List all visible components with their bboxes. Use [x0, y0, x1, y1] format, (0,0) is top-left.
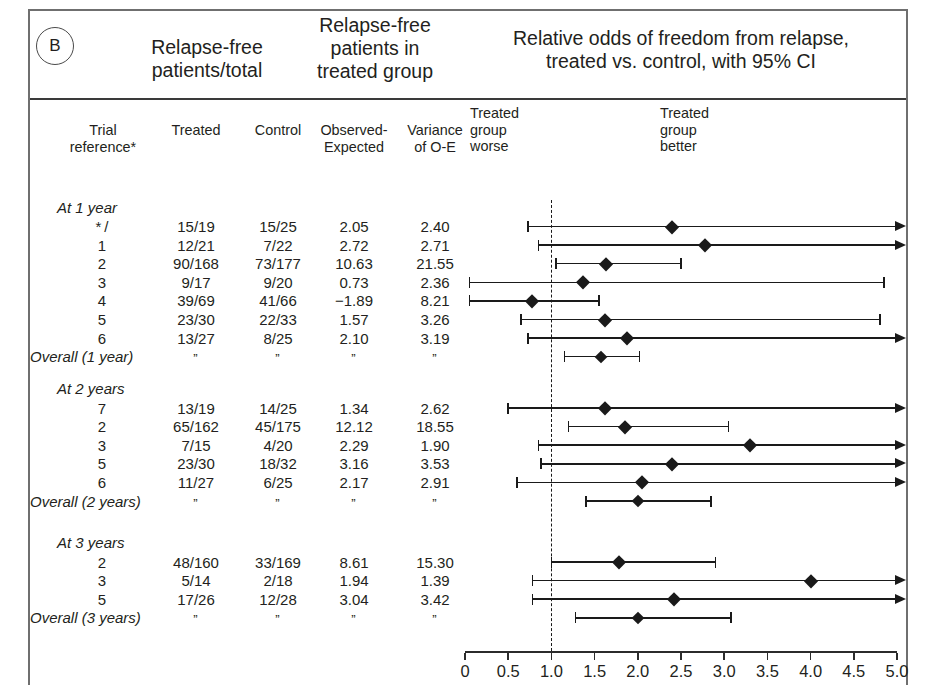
- panel-letter-text: B: [49, 36, 60, 56]
- row-g1-r5-point-estimate: [526, 294, 539, 307]
- x-axis-label-2.0: 2.0: [626, 662, 649, 681]
- panel-letter-badge: B: [36, 27, 74, 65]
- row-treated: 48/160: [173, 555, 219, 570]
- x-axis-tick-0: [464, 653, 466, 660]
- x-axis-tick-4.5: [853, 653, 855, 660]
- group-label-2: At 2 years: [57, 381, 125, 396]
- row-g1-r3-ci-cap-left: [555, 258, 557, 269]
- row-g2-r1-ci-cap-left: [507, 403, 509, 414]
- header-relapse-free-treated-group: Relapse-free patients in treated group: [296, 14, 454, 83]
- row-g2-r4-ci-line: [541, 463, 897, 465]
- row-g3-r1-ci-cap-right: [715, 557, 717, 568]
- row-observed-expected: 2.05: [339, 219, 368, 234]
- overall-label-2: Overall (2 years): [30, 494, 141, 509]
- row-control: 9/20: [263, 275, 292, 290]
- row-g1-r7-ci-cap-left: [527, 333, 529, 344]
- overall-g3-point-estimate: [631, 611, 644, 624]
- overall-ditto-4: ”: [432, 351, 437, 366]
- row-control: 41/66: [259, 293, 297, 308]
- row-treated: 12/21: [177, 238, 215, 253]
- overall-g3-ci-line: [576, 617, 732, 619]
- row-g2-r5-ci-arrow-right: [895, 477, 906, 487]
- x-axis-label-3.0: 3.0: [713, 662, 736, 681]
- row-g3-r3-ci-line: [532, 598, 897, 600]
- row-control: 45/175: [255, 419, 301, 434]
- x-axis-label-3.5: 3.5: [756, 662, 779, 681]
- row-g2-r2-ci-cap-right: [728, 421, 730, 432]
- row-observed-expected: 1.34: [339, 401, 368, 416]
- row-observed-expected: 1.57: [339, 312, 368, 327]
- overall-g1-point-estimate: [594, 350, 607, 363]
- x-axis-label-0: 0: [460, 662, 469, 681]
- row-control: 14/25: [259, 401, 297, 416]
- row-control: 12/28: [259, 592, 297, 607]
- row-trial-reference: 7: [98, 401, 106, 416]
- row-observed-expected: 2.17: [339, 475, 368, 490]
- row-control: 8/25: [263, 331, 292, 346]
- row-control: 7/22: [263, 238, 292, 253]
- x-axis-tick-5.0: [896, 653, 898, 660]
- overall-ditto-1: ”: [193, 612, 198, 627]
- overall-ditto-3: ”: [351, 612, 356, 627]
- x-axis-label-1.0: 1.0: [540, 662, 563, 681]
- x-axis-label-4.5: 4.5: [842, 662, 865, 681]
- row-trial-reference: 4: [98, 293, 106, 308]
- row-trial-reference: 5: [98, 592, 106, 607]
- plot-layer: [0, 0, 931, 688]
- row-g1-r6-ci-line: [521, 319, 880, 321]
- row-g1-r5-ci-cap-left: [469, 295, 471, 306]
- row-treated: 65/162: [173, 419, 219, 434]
- row-observed-expected: 2.10: [339, 331, 368, 346]
- row-trial-reference: 6: [98, 331, 106, 346]
- row-trial-reference: 5: [98, 456, 106, 471]
- overall-ditto-3: ”: [351, 351, 356, 366]
- row-variance: 3.42: [420, 592, 449, 607]
- row-control: 15/25: [259, 219, 297, 234]
- row-variance: 21.55: [416, 256, 454, 271]
- row-g1-r4-point-estimate: [577, 276, 590, 289]
- row-g1-r4-ci-cap-left: [469, 277, 471, 288]
- row-g2-r3-ci-cap-left: [538, 440, 540, 451]
- row-treated: 7/15: [181, 438, 210, 453]
- row-g3-r3-ci-cap-left: [532, 594, 534, 605]
- overall-g2-ci-line: [586, 500, 711, 502]
- row-treated: 23/30: [177, 312, 215, 327]
- overall-ditto-4: ”: [432, 612, 437, 627]
- x-axis-tick-2.5: [680, 653, 682, 660]
- row-variance: 8.21: [420, 293, 449, 308]
- row-g2-r4-ci-arrow-right: [895, 458, 906, 468]
- row-g1-r7-ci-line: [528, 337, 897, 339]
- row-g1-r3-ci-cap-right: [680, 258, 682, 269]
- row-trial-reference: 3: [98, 573, 106, 588]
- row-g1-r2-ci-arrow-right: [895, 240, 906, 250]
- row-g2-r5-point-estimate: [635, 476, 648, 489]
- row-g2-r3-point-estimate: [743, 438, 756, 451]
- row-observed-expected: −1.89: [335, 293, 373, 308]
- row-g1-r2-point-estimate: [698, 238, 711, 251]
- row-treated: 39/69: [177, 293, 215, 308]
- overall-ditto-2: ”: [275, 612, 280, 627]
- overall-g3-ci-cap-right: [730, 612, 732, 623]
- overall-g2-ci-cap-right: [710, 496, 712, 507]
- row-control: 33/169: [255, 555, 301, 570]
- row-observed-expected: 12.12: [335, 419, 373, 434]
- row-g2-r5-ci-line: [517, 482, 897, 484]
- group-label-1: At 1 year: [57, 200, 117, 215]
- row-g3-r2-ci-cap-left: [532, 575, 534, 586]
- row-g2-r1-point-estimate: [598, 401, 611, 414]
- overall-ditto-2: ”: [275, 496, 280, 511]
- row-observed-expected: 10.63: [335, 256, 373, 271]
- row-observed-expected: 3.16: [339, 456, 368, 471]
- row-variance: 2.91: [420, 475, 449, 490]
- row-g1-r4-ci-cap-right: [883, 277, 885, 288]
- row-g3-r1-ci-cap-left: [551, 557, 553, 568]
- overall-g1-ci-cap-right: [639, 351, 641, 362]
- row-control: 6/25: [263, 475, 292, 490]
- overall-g1-ci-line: [564, 356, 639, 358]
- row-g2-r2-ci-cap-left: [568, 421, 570, 432]
- group-label-3: At 3 years: [57, 535, 125, 550]
- row-control: 22/33: [259, 312, 297, 327]
- row-variance: 3.53: [420, 456, 449, 471]
- row-g3-r3-point-estimate: [667, 592, 680, 605]
- x-axis-label-0.5: 0.5: [497, 662, 520, 681]
